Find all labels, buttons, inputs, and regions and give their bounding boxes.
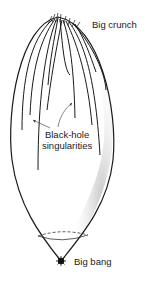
big-crunch-label: Big crunch [92,19,137,30]
arrow-left [33,120,50,128]
black-hole-label-line2: singularities [42,140,92,151]
black-hole-label-line1: Black-hole [42,129,92,140]
black-hole-singularities-label: Black-hole singularities [42,129,92,151]
big-bang-label: Big bang [74,256,112,267]
arrow-right [58,103,72,127]
